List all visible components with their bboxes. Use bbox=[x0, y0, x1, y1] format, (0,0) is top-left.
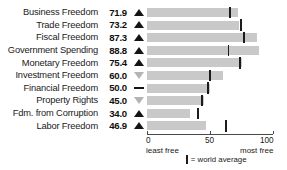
indicator-score: 45.0 bbox=[102, 95, 127, 106]
axis-tick bbox=[147, 131, 148, 134]
bar bbox=[147, 8, 238, 17]
indicator-row: Trade Freedom73.2 bbox=[0, 19, 147, 32]
indicator-name: Monetary Freedom bbox=[22, 58, 98, 68]
indicator-row: Monetary Freedom75.4 bbox=[0, 56, 147, 69]
bar bbox=[147, 58, 242, 67]
bar-track bbox=[147, 96, 273, 105]
bar bbox=[147, 21, 239, 30]
axis-most-free-label: most free bbox=[240, 146, 273, 155]
indicator-score: 60.0 bbox=[102, 70, 127, 81]
trend-flat-icon bbox=[131, 87, 147, 89]
indicator-row: Government Spending88.8 bbox=[0, 44, 147, 57]
trend-up-icon bbox=[131, 122, 147, 129]
trend-up-icon bbox=[131, 59, 147, 66]
indicator-name: Investment Freedom bbox=[15, 70, 98, 80]
axis-tick-label: 50 bbox=[205, 136, 214, 145]
world-average-mark bbox=[225, 120, 227, 132]
bar bbox=[147, 33, 257, 42]
indicator-name: Trade Freedom bbox=[36, 20, 98, 30]
axis-tick-label: 100 bbox=[260, 136, 274, 145]
indicator-score: 88.8 bbox=[102, 45, 127, 56]
bar bbox=[147, 71, 223, 80]
axis-tick-label: 0 bbox=[146, 136, 151, 145]
bar-track bbox=[147, 46, 273, 55]
indicator-name: Fiscal Freedom bbox=[36, 32, 98, 42]
world-average-mark bbox=[243, 32, 245, 44]
bar-track bbox=[147, 121, 273, 130]
world-average-mark bbox=[239, 57, 241, 69]
indicator-score: 34.0 bbox=[102, 108, 127, 119]
bar bbox=[147, 109, 190, 118]
trend-down-icon bbox=[131, 97, 147, 104]
bar bbox=[147, 96, 204, 105]
bar bbox=[147, 84, 210, 93]
world-average-mark-icon bbox=[186, 155, 188, 164]
indicator-score: 75.4 bbox=[102, 57, 127, 68]
bar bbox=[147, 46, 259, 55]
indicator-score: 73.2 bbox=[102, 19, 127, 30]
indicator-label-column: Business Freedom71.9Trade Freedom73.2Fis… bbox=[0, 6, 147, 132]
bar-track bbox=[147, 8, 273, 17]
bar-track bbox=[147, 58, 273, 67]
world-average-mark bbox=[201, 95, 203, 107]
indicator-name: Labor Freedom bbox=[36, 121, 98, 131]
bar-track bbox=[147, 84, 273, 93]
plot-area: 050100least freemost free bbox=[147, 0, 273, 170]
indicator-score: 50.0 bbox=[102, 82, 127, 93]
freedom-index-chart: Business Freedom71.9Trade Freedom73.2Fis… bbox=[0, 0, 287, 170]
world-average-mark bbox=[197, 108, 199, 120]
world-average-mark bbox=[228, 45, 230, 57]
indicator-score: 46.9 bbox=[102, 120, 127, 131]
indicator-row: Financial Freedom50.0 bbox=[0, 82, 147, 95]
indicator-name: Fdm. from Corruption bbox=[13, 108, 98, 118]
indicator-row: Property Rights45.0 bbox=[0, 94, 147, 107]
bar-track bbox=[147, 33, 273, 42]
trend-up-icon bbox=[131, 34, 147, 41]
indicator-score: 71.9 bbox=[102, 7, 127, 18]
world-average-mark bbox=[240, 19, 242, 31]
trend-up-icon bbox=[131, 9, 147, 16]
bar-track bbox=[147, 109, 273, 118]
trend-up-icon bbox=[131, 21, 147, 28]
indicator-name: Property Rights bbox=[36, 95, 98, 105]
legend: = world average bbox=[186, 155, 247, 164]
axis-tick bbox=[273, 131, 274, 134]
indicator-row: Business Freedom71.9 bbox=[0, 6, 147, 19]
trend-up-icon bbox=[131, 47, 147, 54]
indicator-name: Business Freedom bbox=[23, 7, 98, 17]
axis-tick bbox=[210, 131, 211, 134]
trend-down-icon bbox=[131, 72, 147, 79]
world-average-mark bbox=[229, 7, 231, 19]
axis-least-free-label: least free bbox=[146, 146, 179, 155]
trend-up-icon bbox=[131, 110, 147, 117]
indicator-name: Financial Freedom bbox=[24, 83, 98, 93]
world-average-mark bbox=[209, 70, 211, 82]
indicator-row: Labor Freedom46.9 bbox=[0, 119, 147, 132]
legend-label: = world average bbox=[191, 155, 247, 164]
indicator-score: 87.3 bbox=[102, 32, 127, 43]
bar-track bbox=[147, 21, 273, 30]
world-average-mark bbox=[207, 82, 209, 94]
bar bbox=[147, 121, 206, 130]
indicator-row: Investment Freedom60.0 bbox=[0, 69, 147, 82]
x-axis-line bbox=[147, 134, 273, 135]
indicator-row: Fdm. from Corruption34.0 bbox=[0, 107, 147, 120]
indicator-name: Government Spending bbox=[8, 45, 98, 55]
indicator-row: Fiscal Freedom87.3 bbox=[0, 31, 147, 44]
